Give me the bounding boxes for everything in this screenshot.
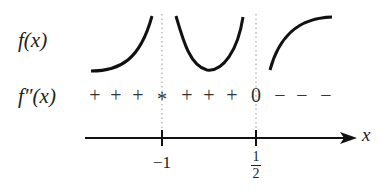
curve-right [270,17,332,70]
sign-symbol: + [106,84,126,107]
sign-symbol: + [199,84,219,107]
sign-symbol: + [85,84,105,107]
sign-symbol: + [128,84,148,107]
curve-middle [176,16,243,70]
sign-symbol: − [292,84,312,107]
sign-symbol: * [152,88,172,111]
sign-symbol: + [222,84,242,107]
sign-symbol: − [316,84,336,107]
tick-label-neg1: −1 [147,153,177,173]
axis-variable-label: x [362,124,370,146]
fraction-numerator: 1 [253,150,260,164]
sign-symbol: + [177,84,197,107]
tick-label-half: 1 2 [246,150,266,181]
f-label: f(x) [18,28,47,53]
sign-symbol: − [270,84,290,107]
curve-left [91,16,152,71]
fraction-denominator: 2 [253,167,260,181]
sign-symbol: 0 [246,84,266,107]
fpp-label: f″(x) [18,84,56,109]
